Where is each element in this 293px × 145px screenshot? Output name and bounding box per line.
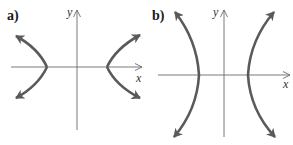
panel-b-left-branch-lower <box>174 75 199 137</box>
panel-a-x-label: x <box>135 71 142 85</box>
panel-b-left-branch-upper <box>175 12 199 75</box>
panel-a-right-branch-upper <box>107 35 140 67</box>
panel-a-label: a) <box>7 8 19 24</box>
panel-b-y-label: y <box>212 5 219 19</box>
panel-b-label: b) <box>152 8 165 24</box>
panel-a: a) y x <box>7 5 142 130</box>
panel-b-x-label: x <box>282 77 289 91</box>
figure-canvas: a) y x b) y x <box>0 0 293 145</box>
panel-b-right-branch-lower <box>248 75 275 137</box>
panel-a-left-branch-upper <box>16 36 47 67</box>
panel-a-left-branch-lower <box>16 67 47 98</box>
panel-b: b) y x <box>152 5 290 137</box>
panel-a-y-label: y <box>66 5 73 19</box>
panel-b-right-branch-upper <box>248 12 274 75</box>
